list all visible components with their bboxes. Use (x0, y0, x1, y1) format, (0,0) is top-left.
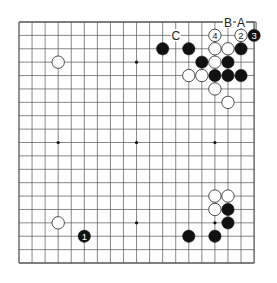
black-stone (222, 203, 234, 215)
white-stone (222, 190, 234, 202)
white-stone (209, 203, 221, 215)
star-point (213, 141, 216, 144)
black-stone (196, 56, 208, 68)
black-stone (209, 69, 221, 81)
white-stone (183, 69, 195, 81)
star-point (135, 141, 138, 144)
position-label-a: A (237, 16, 245, 30)
move-number: 3 (251, 30, 256, 41)
black-stone (183, 43, 195, 55)
black-stone (235, 43, 247, 55)
black-stone (235, 69, 247, 81)
white-stone (209, 83, 221, 95)
white-stone (209, 190, 221, 202)
black-stone (222, 69, 234, 81)
white-stone (196, 69, 208, 81)
white-stone (209, 43, 221, 55)
black-stone (156, 43, 168, 55)
stones: 4231 (52, 29, 260, 242)
black-stone (209, 230, 221, 242)
white-stone (52, 56, 64, 68)
black-stone (222, 217, 234, 229)
star-point (213, 221, 216, 224)
move-number: 2 (238, 30, 243, 41)
black-stone (183, 230, 195, 242)
move-number: 1 (82, 231, 87, 242)
white-stone (52, 217, 64, 229)
star-point (57, 141, 60, 144)
position-label-c: C (171, 29, 180, 43)
black-stone (222, 56, 234, 68)
white-stone (222, 43, 234, 55)
star-point (135, 61, 138, 64)
go-board-diagram: CBA 4231 (0, 0, 277, 283)
move-number: 4 (212, 30, 217, 41)
position-labels: CBA (171, 16, 246, 43)
star-point (135, 221, 138, 224)
position-label-b: B (224, 16, 232, 30)
white-stone (209, 56, 221, 68)
white-stone (222, 96, 234, 108)
